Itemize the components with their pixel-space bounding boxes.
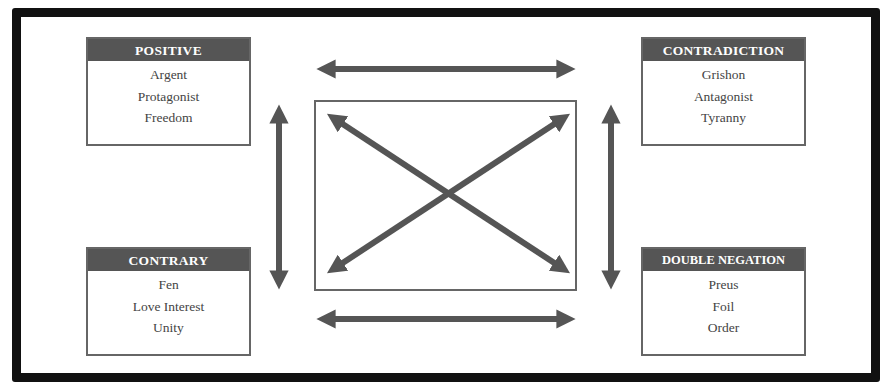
arrows-layer (0, 0, 885, 388)
